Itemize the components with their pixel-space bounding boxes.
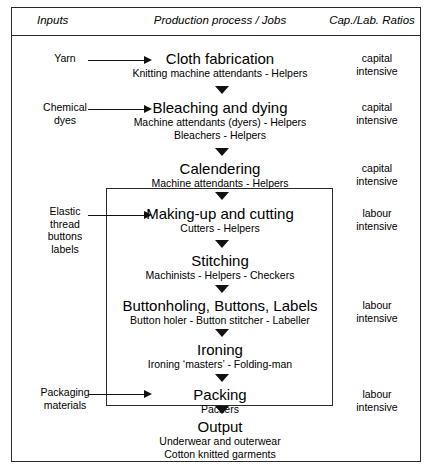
arrow-shaft (88, 215, 144, 216)
arrow-head-icon (144, 56, 152, 64)
flow-arrow-down-icon (215, 240, 229, 248)
stage-ironing: Ironing Ironing ‘masters’ - Folding-man (100, 341, 340, 371)
ratio-buttonholing: labour intensive (334, 299, 420, 324)
ratio-bleaching-and-dying: capital intensive (334, 101, 420, 126)
ratio-making-up-and-cutting: labour intensive (334, 207, 420, 232)
arrow-head-icon (144, 211, 152, 219)
stage-jobs-line-1: Machine attendants (dyers) - Helpers (100, 116, 340, 129)
ratio-line-2: intensive (334, 401, 420, 414)
flow-arrow-down-icon (215, 192, 229, 200)
input-arrow-elastic-thread (88, 211, 152, 220)
flow-arrow-down-icon (215, 86, 229, 94)
input-arrow-yarn (88, 56, 152, 65)
stage-title: Buttonholing, Buttons, Labels (100, 297, 340, 314)
stage-stitching: Stitching Machinists - Helpers - Checker… (100, 252, 340, 282)
ratio-line-2: intensive (334, 175, 420, 188)
input-label-line-3: buttons (26, 230, 104, 243)
ratio-line-1: capital (334, 52, 420, 65)
input-label-line-2: materials (26, 399, 104, 412)
stage-jobs: Knitting machine attendants - Helpers (100, 67, 340, 80)
ratio-line-2: intensive (334, 312, 420, 325)
input-arrow-packaging-materials (88, 390, 152, 399)
input-arrow-chemical-dyes (88, 105, 152, 114)
arrow-shaft (88, 394, 144, 395)
diagram-frame: Inputs Production process / Jobs Cap./La… (11, 7, 421, 462)
arrow-shaft (88, 60, 144, 61)
ratio-calendering: capital intensive (334, 162, 420, 187)
arrow-shaft (88, 109, 144, 110)
flow-arrow-down-icon (215, 148, 229, 156)
stage-calendering: Calendering Machine attendants - Helpers (100, 160, 340, 190)
stage-output: Output Underwear and outerwear Cotton kn… (100, 418, 340, 460)
ratio-line-2: intensive (334, 65, 420, 78)
column-header-production-process: Production process / Jobs (122, 14, 318, 26)
column-header-inputs: Inputs (37, 14, 68, 26)
input-label-line-2: dyes (26, 114, 104, 127)
ratio-cloth-fabrication: capital intensive (334, 52, 420, 77)
output-line-1: Underwear and outerwear (100, 435, 340, 448)
column-header-cap-lab-ratios: Cap./Lab. Ratios (322, 14, 422, 26)
ratio-line-1: capital (334, 162, 420, 175)
ratio-line-2: intensive (334, 220, 420, 233)
stage-title: Calendering (100, 160, 340, 177)
ratio-line-1: capital (334, 101, 420, 114)
stage-title: Stitching (100, 252, 340, 269)
stage-jobs: Cutters - Helpers (100, 222, 340, 235)
stage-buttonholing-buttons-labels: Buttonholing, Buttons, Labels Button hol… (100, 297, 340, 327)
arrow-head-icon (144, 105, 152, 113)
flow-arrow-down-icon (215, 406, 229, 414)
flow-arrow-down-icon (215, 329, 229, 337)
column-headers-row: Inputs Production process / Jobs Cap./La… (12, 8, 420, 36)
ratio-line-1: labour (334, 388, 420, 401)
stage-jobs: Machinists - Helpers - Checkers (100, 269, 340, 282)
stage-title: Ironing (100, 341, 340, 358)
output-line-2: Cotton knitted garments (100, 448, 340, 461)
ratio-packing: labour intensive (334, 388, 420, 413)
flow-arrow-down-icon (215, 374, 229, 382)
stage-jobs-line-2: Bleachers - Helpers (100, 129, 340, 142)
ratio-line-1: labour (334, 299, 420, 312)
stage-jobs: Ironing ‘masters’ - Folding-man (100, 358, 340, 371)
stage-jobs: Machine attendants - Helpers (100, 177, 340, 190)
input-label-line-4: labels (26, 243, 104, 256)
flow-arrow-down-icon (215, 285, 229, 293)
arrow-head-icon (144, 390, 152, 398)
stage-title: Output (100, 418, 340, 435)
diagram-body: Cloth fabrication Knitting machine atten… (12, 36, 420, 462)
stage-jobs: Button holer - Button stitcher - Labelle… (100, 314, 340, 327)
ratio-line-2: intensive (334, 114, 420, 127)
ratio-line-1: labour (334, 207, 420, 220)
